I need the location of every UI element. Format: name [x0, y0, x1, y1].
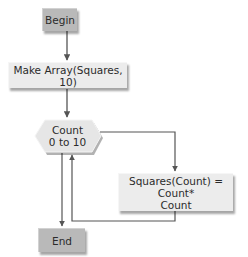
- make-array-label: Make Array(Squares, 10): [9, 64, 127, 88]
- make-array-node: Make Array(Squares, 10): [8, 62, 127, 88]
- loop-label-line1: Count: [49, 124, 86, 136]
- edge-loop-to-squares: [100, 132, 175, 171]
- begin-node: Begin: [42, 8, 77, 31]
- end-node: End: [38, 228, 85, 252]
- flowchart-canvas: Begin Make Array(Squares, 10) Count 0 to…: [0, 0, 248, 257]
- begin-label: Begin: [45, 14, 75, 26]
- squares-assignment-node: Squares(Count) = Count* Count: [118, 173, 233, 211]
- loop-label-line2: 0 to 10: [49, 136, 86, 148]
- end-label: End: [52, 235, 72, 247]
- squares-label-line1: Squares(Count) = Count*: [123, 175, 229, 199]
- squares-label-line2: Count: [123, 199, 229, 211]
- loop-node: Count 0 to 10: [34, 119, 101, 153]
